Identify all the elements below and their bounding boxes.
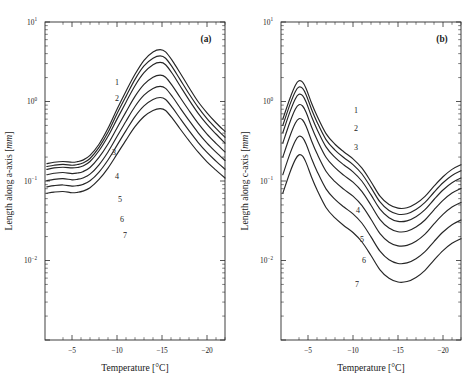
panel-b-curves xyxy=(283,81,461,283)
figure-container: −5−10−15−20 10110010−110−2 1234567 (a) T… xyxy=(0,0,473,386)
panel-b-label: (b) xyxy=(436,34,447,45)
y-tick-label: 100 xyxy=(27,96,37,106)
x-tick-label: −15 xyxy=(156,346,168,355)
y-tick-label: 10−1 xyxy=(24,175,37,185)
curve-4 xyxy=(283,104,461,232)
panel-a-y-tick-labels: 10110010−110−2 xyxy=(24,16,37,265)
x-tick-label: −20 xyxy=(437,346,449,355)
panel-a-axis-ticks xyxy=(45,22,225,340)
x-tick-label: −10 xyxy=(111,346,123,355)
x-tick-label: −10 xyxy=(347,346,359,355)
panel-b-yaxis-title: Length along c-axis [mm] xyxy=(239,132,250,231)
x-tick-label: −5 xyxy=(304,346,312,355)
y-tick-label: 10−1 xyxy=(260,175,273,185)
curve-7 xyxy=(47,109,225,194)
curve-label-7: 7 xyxy=(355,280,359,289)
panel-a-x-tick-labels: −5−10−15−20 xyxy=(68,346,213,355)
curve-label-1: 1 xyxy=(115,78,119,87)
panel-a-svg: −5−10−15−20 10110010−110−2 1234567 (a) T… xyxy=(0,0,237,386)
curve-label-2: 2 xyxy=(354,124,358,133)
panel-b-x-tick-labels: −5−10−15−20 xyxy=(304,346,449,355)
panel-b-y-tick-labels: 10110010−110−2 xyxy=(260,16,273,265)
panel-a: −5−10−15−20 10110010−110−2 1234567 (a) T… xyxy=(0,0,237,386)
panel-b: −5−10−15−20 10110010−110−2 1234567 (b) T… xyxy=(236,0,473,386)
curve-label-4: 4 xyxy=(115,172,119,181)
y-tick-label: 10−2 xyxy=(260,255,273,265)
x-tick-label: −5 xyxy=(68,346,76,355)
curve-5 xyxy=(47,86,225,180)
curve-label-1: 1 xyxy=(354,106,358,115)
curve-label-3: 3 xyxy=(354,143,358,152)
curve-7 xyxy=(283,155,461,283)
curve-3 xyxy=(283,94,461,222)
curve-label-5: 5 xyxy=(118,195,122,204)
panel-b-curve-labels: 1234567 xyxy=(354,106,366,289)
curve-label-2: 2 xyxy=(115,94,119,103)
y-tick-label: 10−2 xyxy=(24,255,37,265)
curve-label-4: 4 xyxy=(356,206,360,215)
y-tick-label: 101 xyxy=(27,16,37,26)
panel-a-frame xyxy=(45,22,225,340)
y-tick-label: 101 xyxy=(263,16,273,26)
curve-label-6: 6 xyxy=(120,215,124,224)
curve-label-3: 3 xyxy=(112,148,116,157)
curve-label-7: 7 xyxy=(123,231,127,240)
panel-a-label: (a) xyxy=(201,34,212,45)
curve-label-5: 5 xyxy=(360,235,364,244)
panel-a-yaxis-title: Length along a-axis [mm] xyxy=(3,132,14,231)
x-tick-label: −20 xyxy=(201,346,213,355)
panel-a-curves xyxy=(47,50,225,194)
curve-label-6: 6 xyxy=(362,256,366,265)
y-tick-label: 100 xyxy=(263,96,273,106)
x-tick-label: −15 xyxy=(392,346,404,355)
panel-b-svg: −5−10−15−20 10110010−110−2 1234567 (b) T… xyxy=(236,0,473,386)
panel-b-xaxis-title: Temperature [°C] xyxy=(337,362,404,373)
panel-a-xaxis-title: Temperature [°C] xyxy=(101,362,168,373)
